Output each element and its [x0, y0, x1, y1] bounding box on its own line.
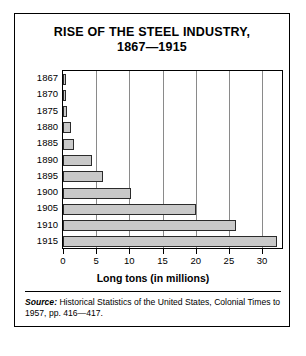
bar — [63, 139, 74, 150]
bar — [63, 90, 66, 101]
y-axis-tick-label: 1900 — [37, 187, 58, 197]
chart-title-line-2: 1867—1915 — [15, 40, 289, 55]
y-axis-tick-labels: 1867187018751880188518901895190019051910… — [15, 70, 62, 249]
x-axis: 051015202530 — [62, 249, 283, 271]
bar — [63, 171, 103, 182]
x-axis-tick-label: 20 — [184, 255, 208, 266]
y-axis-tick-label: 1895 — [37, 171, 58, 181]
y-axis-tick-label: 1885 — [37, 138, 58, 148]
x-axis-tick — [96, 249, 97, 254]
bar — [63, 122, 71, 133]
y-axis-tick-label: 1870 — [37, 89, 58, 99]
source-note: Source: Historical Statistics of the Uni… — [25, 297, 283, 318]
bar — [63, 220, 236, 231]
x-axis-tick-label: 30 — [250, 255, 274, 266]
chart-title-line-1: RISE OF THE STEEL INDUSTRY, — [54, 25, 250, 39]
y-axis-tick-label: 1890 — [37, 155, 58, 165]
source-divider — [25, 291, 281, 292]
source-label: Source: — [25, 297, 57, 307]
chart-figure: RISE OF THE STEEL INDUSTRY, 1867—1915 18… — [14, 13, 290, 327]
x-axis-tick — [229, 249, 230, 254]
bar — [63, 155, 92, 166]
y-axis-tick-label: 1905 — [37, 203, 58, 213]
x-axis-tick — [163, 249, 164, 254]
y-axis-tick-label: 1875 — [37, 106, 58, 116]
bar — [63, 74, 66, 85]
bar — [63, 204, 196, 215]
plot-wrapper: 1867187018751880188518901895190019051910… — [15, 70, 291, 270]
x-axis-tick — [262, 249, 263, 254]
x-axis-title: Long tons (in millions) — [15, 272, 291, 284]
y-axis-tick-label: 1915 — [37, 236, 58, 246]
x-axis-tick-label: 25 — [217, 255, 241, 266]
y-axis-tick-label: 1867 — [37, 73, 58, 83]
bar — [63, 106, 67, 117]
x-axis-tick — [196, 249, 197, 254]
x-axis-tick — [129, 249, 130, 254]
x-axis-tick-label: 5 — [84, 255, 108, 266]
x-axis-tick-label: 15 — [151, 255, 175, 266]
x-axis-tick-label: 0 — [51, 255, 75, 266]
y-axis-tick-label: 1880 — [37, 122, 58, 132]
x-axis-tick — [63, 249, 64, 254]
bar — [63, 188, 131, 199]
bar — [63, 236, 277, 247]
bar-series — [63, 71, 282, 248]
x-axis-tick-label: 10 — [117, 255, 141, 266]
chart-title: RISE OF THE STEEL INDUSTRY, 1867—1915 — [15, 25, 289, 55]
y-axis-tick-label: 1910 — [37, 220, 58, 230]
plot-area — [62, 70, 283, 249]
source-text: Historical Statistics of the United Stat… — [25, 297, 280, 318]
